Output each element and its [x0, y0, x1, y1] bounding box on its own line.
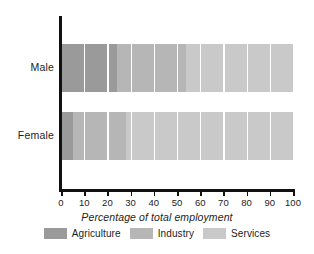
bar-segment-industry-female [73, 112, 126, 160]
tick-label-0: 0 [58, 197, 63, 208]
x-axis-ticks: 0102030405060708090100 [61, 191, 293, 213]
tick-mark-90 [270, 191, 272, 196]
tick-mark-80 [247, 191, 249, 196]
tick-label-20: 20 [102, 197, 113, 208]
bar-segment-agriculture-female [61, 112, 73, 160]
category-label-female: Female [0, 129, 54, 141]
tick-label-50: 50 [172, 197, 183, 208]
plot-area [61, 18, 293, 190]
tick-mark-100 [293, 191, 295, 196]
tick-label-90: 90 [265, 197, 276, 208]
bar-female [61, 112, 293, 160]
tick-label-40: 40 [149, 197, 160, 208]
tick-mark-0 [61, 191, 63, 196]
legend-swatch-agriculture [44, 228, 67, 239]
chart-legend: AgricultureIndustryServices [0, 228, 314, 239]
tick-mark-10 [84, 191, 86, 196]
tick-label-60: 60 [195, 197, 206, 208]
tick-label-80: 80 [241, 197, 252, 208]
tick-mark-60 [200, 191, 202, 196]
bar-segment-industry-male [117, 44, 187, 92]
tick-mark-50 [177, 191, 179, 196]
tick-label-30: 30 [125, 197, 136, 208]
bar-segment-services-female [126, 112, 293, 160]
tick-label-70: 70 [218, 197, 229, 208]
x-axis-title: Percentage of total employment [0, 211, 314, 223]
y-axis-line [59, 16, 62, 192]
legend-item-services[interactable]: Services [203, 228, 270, 239]
legend-swatch-services [203, 228, 226, 239]
legend-swatch-industry [130, 228, 153, 239]
bar-segment-services-male [186, 44, 293, 92]
tick-label-10: 10 [79, 197, 90, 208]
tick-mark-40 [154, 191, 156, 196]
tick-label-100: 100 [285, 197, 301, 208]
tick-mark-30 [131, 191, 133, 196]
tick-mark-20 [107, 191, 109, 196]
category-label-male: Male [6, 61, 54, 73]
gridline-backdrop-100 [293, 18, 294, 190]
legend-item-agriculture[interactable]: Agriculture [44, 228, 121, 239]
legend-label-agriculture: Agriculture [72, 228, 121, 239]
legend-label-services: Services [231, 228, 270, 239]
stacked-bar-chart: Male Female 0102030405060708090100 Perce… [0, 0, 314, 254]
bar-segment-agriculture-male [61, 44, 117, 92]
legend-label-industry: Industry [158, 228, 194, 239]
tick-mark-70 [223, 191, 225, 196]
bar-male [61, 44, 293, 92]
legend-item-industry[interactable]: Industry [130, 228, 194, 239]
